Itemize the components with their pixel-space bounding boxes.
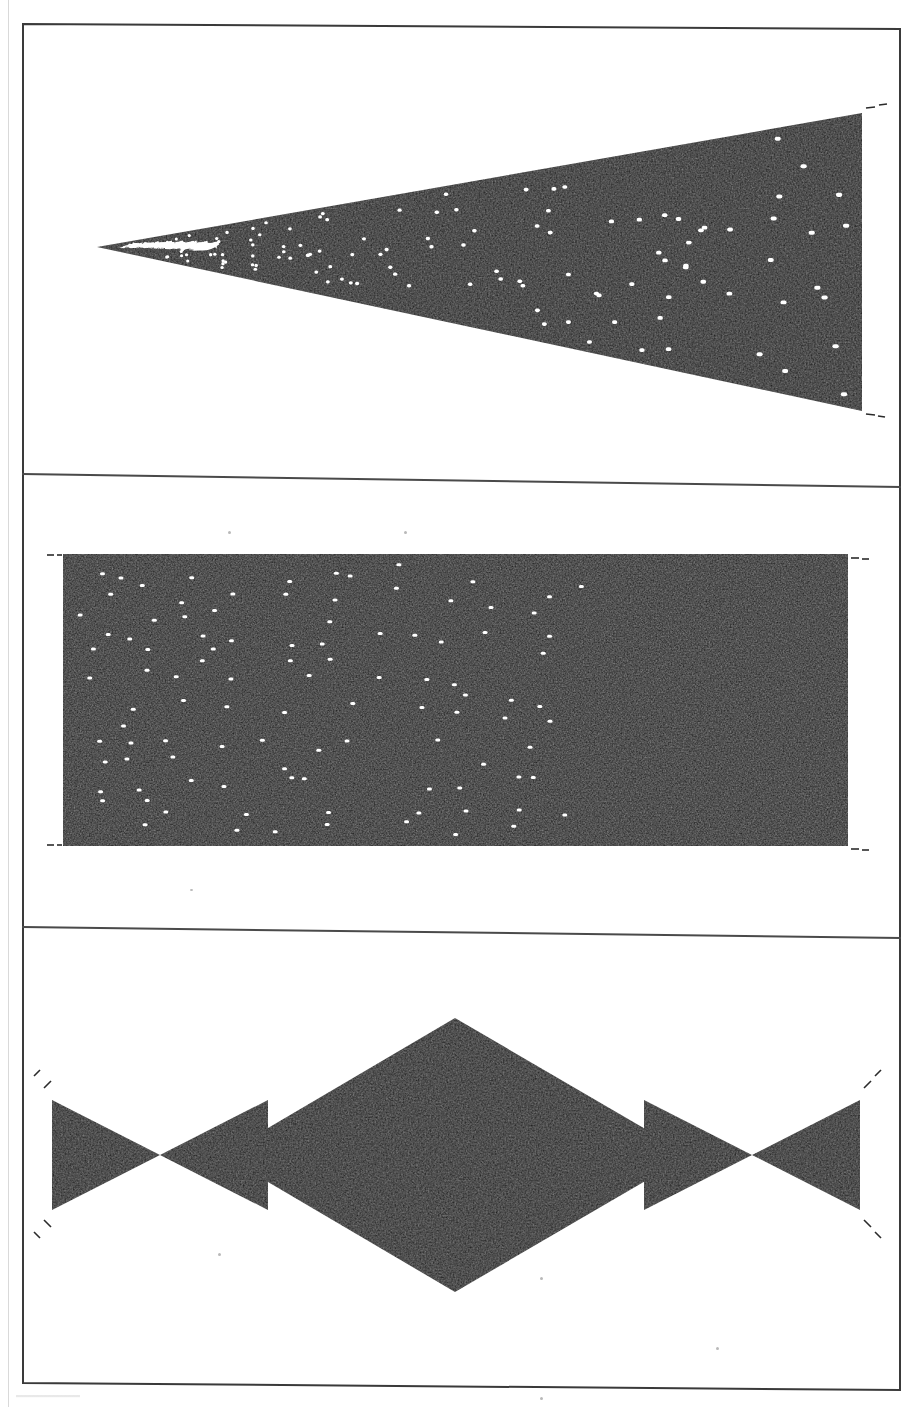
scan-speck [716, 1347, 719, 1350]
left-inner-wedge [160, 1100, 268, 1210]
right-inner-wedge [644, 1100, 752, 1210]
scan-speck [190, 889, 193, 891]
panel-uniform-rectangle [0, 474, 910, 927]
panel-wedge [0, 0, 910, 474]
left-outer-wedge [52, 1100, 160, 1210]
caption-stub [16, 1391, 80, 1402]
scan-speck [540, 1397, 543, 1400]
wedge-body [97, 113, 862, 411]
diamond-and-wedge-bodies [52, 1018, 860, 1292]
scan-speck [218, 1253, 221, 1256]
scanned-figure-page [0, 0, 910, 1407]
diamond-body [222, 1018, 690, 1292]
scan-speck [404, 531, 407, 534]
scan-speck [228, 531, 231, 534]
right-outer-wedge [752, 1100, 860, 1210]
uniform-rectangle-body [63, 554, 848, 846]
scan-speck [540, 1277, 543, 1280]
panel-diamond-and-wedges [0, 927, 910, 1407]
wedge-registration-ticks [866, 104, 887, 417]
